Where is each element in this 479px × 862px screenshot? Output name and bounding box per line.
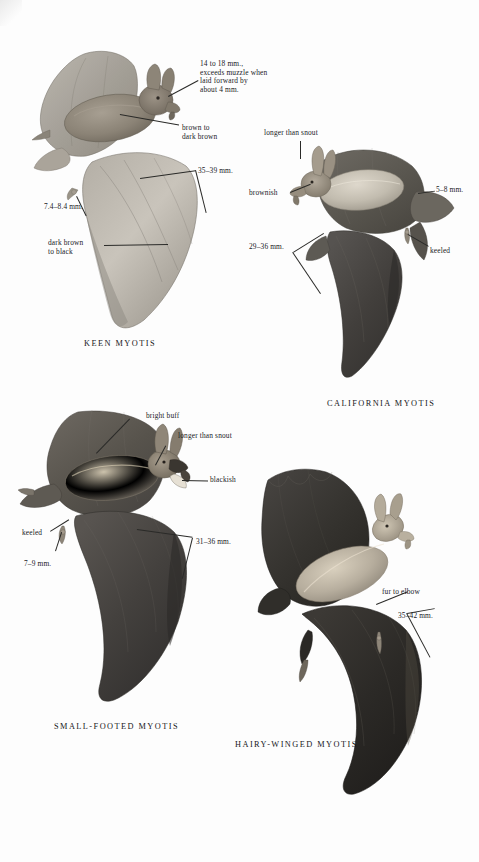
label-wing-color: dark brown to black (48, 239, 83, 256)
label-foot: 7–9 mm. (24, 560, 51, 569)
label-fur-color: brownish (249, 189, 278, 198)
label-fur-color: brown to dark brown (182, 124, 217, 141)
california-myotis-illustration (268, 132, 468, 382)
label-forearm: 31–36 mm. (196, 538, 231, 547)
figure-california-myotis: longer than snout brownish 29–36 mm. 5–8… (240, 118, 479, 418)
caption-keen-myotis: KEEN MYOTIS (84, 339, 156, 348)
label-ear-vs-snout: longer than snout (178, 432, 232, 441)
label-calcar: keeled (22, 529, 42, 538)
caption-small-footed-myotis: SMALL-FOOTED MYOTIS (54, 722, 179, 731)
label-ear-length: 14 to 18 mm., exceeds muzzle when laid f… (200, 60, 267, 94)
small-footed-myotis-illustration (14, 408, 229, 708)
label-fur-color: bright buff (146, 412, 179, 421)
figure-small-footed-myotis: bright buff longer than snout blackish k… (0, 398, 265, 738)
plate-page: 14 to 18 mm., exceeds muzzle when laid f… (0, 0, 479, 862)
label-forearm: 35–42 mm. (398, 612, 433, 621)
leader-ear-vs-snout (300, 141, 301, 159)
label-fur-extent: fur to elbow (382, 588, 420, 597)
label-forearm: 35–39 mm. (198, 167, 233, 176)
label-foot: 7.4–8.4 mm. (44, 203, 83, 212)
figure-hairy-winged-myotis: fur to elbow 35–42 mm. HAIRY-WINGED MYOT… (230, 428, 479, 828)
label-forearm: 29–36 mm. (249, 243, 284, 252)
label-foot: 5–8 mm. (436, 186, 463, 195)
label-calcar: keeled (430, 247, 450, 256)
caption-california-myotis: CALIFORNIA MYOTIS (327, 399, 435, 408)
figure-keen-myotis: 14 to 18 mm., exceeds muzzle when laid f… (0, 0, 260, 365)
label-ear-vs-snout: longer than snout (264, 129, 318, 138)
caption-hairy-winged-myotis: HAIRY-WINGED MYOTIS (235, 740, 358, 749)
